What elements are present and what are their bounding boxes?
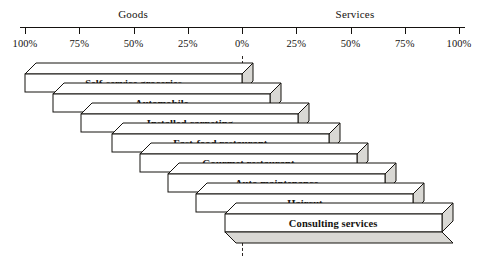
bars-layer: Self-service groceriesAutomobileInstalle… [0, 0, 485, 269]
bar-top-face [81, 103, 309, 114]
bar-top-face [196, 183, 424, 194]
bar-base-face [225, 232, 453, 243]
goods-services-continuum-chart: Goods Services 100%75%50%25%0%25%50%75%1… [0, 0, 485, 269]
bar-front-face [225, 214, 442, 232]
bar-top-face [53, 83, 281, 94]
bar-8: Consulting services [224, 202, 454, 233]
bar-base-slab [224, 231, 454, 246]
bar-top-face [168, 163, 396, 174]
bar-top-face [112, 123, 340, 134]
bar-top-face [225, 203, 453, 214]
bar-top-face [25, 63, 253, 74]
bar-3d-shape [224, 202, 454, 233]
bar-top-face [140, 143, 368, 154]
